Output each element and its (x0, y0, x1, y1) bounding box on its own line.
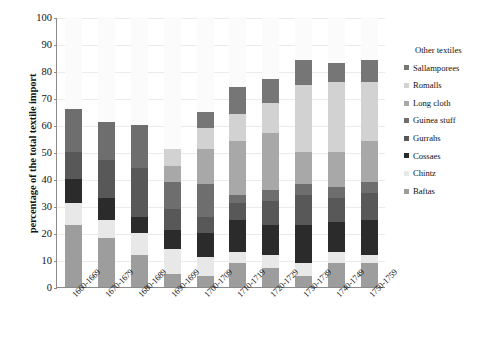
bar-segment[interactable] (164, 149, 181, 165)
y-axis-tick-mark (54, 180, 57, 181)
bar-segment[interactable] (197, 184, 214, 216)
bar-segment[interactable] (164, 209, 181, 231)
bar-segment[interactable] (65, 109, 82, 152)
y-axis-tick-mark (54, 18, 57, 19)
y-axis-tick-label: 30 (42, 202, 53, 213)
bar-segment[interactable] (197, 128, 214, 150)
y-axis-tick-label: 60 (42, 121, 53, 132)
legend-item[interactable]: Gurrahs (404, 134, 480, 143)
bar-segment[interactable] (65, 225, 82, 287)
y-axis-tick-label: 40 (42, 175, 53, 186)
bar-segment[interactable] (262, 201, 279, 225)
y-axis-tick-label: 0 (47, 283, 52, 294)
legend-item[interactable]: Chintz (404, 169, 480, 178)
bar-column[interactable] (262, 79, 279, 287)
bar-segment[interactable] (262, 255, 279, 269)
bar-segment[interactable] (229, 252, 246, 263)
bar-segment[interactable] (295, 85, 312, 153)
bar-column[interactable] (164, 149, 181, 287)
bar-column[interactable] (131, 125, 148, 287)
legend-swatch-icon (404, 118, 409, 123)
bar-segment[interactable] (328, 198, 345, 222)
bar-segment[interactable] (229, 141, 246, 195)
bar-column[interactable] (197, 112, 214, 287)
bar-column[interactable] (361, 60, 378, 287)
legend-item-label: Romalls (413, 81, 442, 90)
bar-segment[interactable] (229, 220, 246, 252)
bar-segment[interactable] (262, 103, 279, 133)
legend-swatch-icon (404, 65, 409, 70)
y-axis-tick-mark (54, 207, 57, 208)
bar-segment[interactable] (229, 87, 246, 114)
bar-segment[interactable] (361, 141, 378, 182)
bar-segment[interactable] (98, 238, 115, 287)
bar-segment[interactable] (164, 249, 181, 273)
bar-segment[interactable] (65, 152, 82, 179)
bar-segment[interactable] (229, 195, 246, 203)
bar-column[interactable] (328, 63, 345, 287)
y-axis-tick-label: 20 (42, 229, 53, 240)
bar-segment[interactable] (65, 179, 82, 203)
legend-item[interactable]: Cossaes (404, 152, 480, 161)
bar-column[interactable] (65, 109, 82, 287)
legend-item-label: Gurrahs (413, 134, 441, 143)
bar-segment[interactable] (295, 184, 312, 195)
legend-item-label: Baftas (413, 187, 435, 196)
bar-segment[interactable] (131, 168, 148, 217)
bar-segment[interactable] (229, 114, 246, 141)
bar-segment[interactable] (328, 187, 345, 198)
bar-segment[interactable] (328, 252, 345, 263)
legend-item[interactable]: Baftas (404, 187, 480, 196)
bar-segment[interactable] (197, 149, 214, 184)
bar-segment[interactable] (328, 222, 345, 252)
bar-segment[interactable] (197, 217, 214, 233)
bar-segment[interactable] (131, 233, 148, 255)
bar-segment[interactable] (164, 230, 181, 249)
bar-segment[interactable] (131, 217, 148, 233)
bar-segment[interactable] (197, 112, 214, 128)
bar-segment[interactable] (131, 125, 148, 168)
bar-segment[interactable] (262, 190, 279, 201)
bar-segment[interactable] (98, 122, 115, 160)
bar-segment[interactable] (328, 82, 345, 152)
bar-segment[interactable] (98, 220, 115, 239)
legend-item[interactable]: Sallamporees (404, 64, 480, 73)
bar-segment[interactable] (328, 63, 345, 82)
legend-item[interactable]: Guinea stuff (404, 116, 480, 125)
bar-segment[interactable] (98, 160, 115, 198)
bar-segment[interactable] (262, 133, 279, 190)
bar-segment[interactable] (262, 225, 279, 255)
bar-segment[interactable] (361, 182, 378, 193)
bar-segment[interactable] (295, 152, 312, 184)
bar-column[interactable] (229, 87, 246, 287)
bar-segment[interactable] (164, 182, 181, 209)
legend-item[interactable]: Long cloth (404, 99, 480, 108)
bar-segment[interactable] (361, 60, 378, 82)
bar-column[interactable] (295, 60, 312, 287)
bar-segment[interactable] (328, 152, 345, 187)
y-axis-tick-mark (54, 126, 57, 127)
y-axis-tick-mark (54, 234, 57, 235)
bar-segment[interactable] (262, 79, 279, 103)
bar-segment[interactable] (229, 203, 246, 219)
bar-segment[interactable] (361, 220, 378, 255)
bar-segment[interactable] (197, 233, 214, 257)
legend-swatch-icon (404, 153, 409, 158)
bar-segment[interactable] (295, 60, 312, 84)
y-axis-tick-label: 10 (42, 256, 53, 267)
bar-segment[interactable] (65, 203, 82, 225)
legend-item[interactable]: Romalls (404, 81, 480, 90)
bar-segment[interactable] (295, 195, 312, 225)
bar-segment[interactable] (361, 82, 378, 141)
bar-segment[interactable] (98, 198, 115, 220)
legend-item-label: Sallamporees (413, 64, 459, 73)
bar-segment[interactable] (361, 193, 378, 220)
bar-segment[interactable] (361, 255, 378, 263)
bar-column[interactable] (98, 122, 115, 287)
y-axis-tick-mark (54, 45, 57, 46)
y-axis-tick-label: 50 (42, 148, 53, 159)
bar-segment[interactable] (295, 225, 312, 263)
bar-segment[interactable] (164, 166, 181, 182)
legend-swatch-icon (404, 83, 409, 88)
legend-item-label: Guinea stuff (413, 116, 456, 125)
